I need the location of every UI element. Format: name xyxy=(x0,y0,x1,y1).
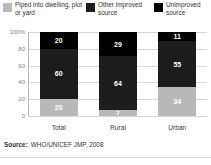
y-tick-label: 0 xyxy=(22,113,25,119)
source-text: WHO/UNICEF JMP, 2008 xyxy=(31,141,104,148)
x-axis-labels: TotalRuralUrban xyxy=(29,124,207,136)
bar-segment: 20 xyxy=(40,99,78,116)
chart-figure: Piped into dwelling, plot or yard Other … xyxy=(0,0,211,165)
bar-rural[interactable]: 29647 xyxy=(99,32,137,116)
bar-segment: 60 xyxy=(40,49,78,99)
y-tick-label: 20 xyxy=(18,96,25,102)
bar-segment: 20 xyxy=(40,32,78,49)
legend-item-unimproved: Unimproved source xyxy=(154,0,209,18)
plot-area: 020406080100% 20602029647115534 xyxy=(0,28,211,124)
legend-swatch-piped xyxy=(3,3,12,12)
y-axis-labels: 020406080100% xyxy=(0,28,28,116)
legend-item-piped: Piped into dwelling, plot or yard xyxy=(3,0,85,18)
y-tick-label: 100% xyxy=(10,29,25,35)
gridline xyxy=(28,116,207,117)
bar-segment: 55 xyxy=(158,41,196,87)
bottom-divider xyxy=(0,157,211,158)
legend-label-other-improved: Other improved source xyxy=(98,0,153,18)
bar-segment: 11 xyxy=(158,32,196,41)
legend-label-unimproved: Unimproved source xyxy=(166,0,209,18)
legend-swatch-unimproved xyxy=(154,3,163,12)
chart-legend: Piped into dwelling, plot or yard Other … xyxy=(0,0,211,27)
source-note: Source:WHO/UNICEF JMP, 2008 xyxy=(4,141,103,148)
y-tick-label: 80 xyxy=(18,46,25,52)
bar-segment: 34 xyxy=(158,87,196,116)
bar-total[interactable]: 206020 xyxy=(40,32,78,116)
x-tick-label: Total xyxy=(40,124,78,131)
legend-swatch-other-improved xyxy=(86,3,95,12)
bar-segment: 29 xyxy=(99,32,137,56)
y-tick-label: 40 xyxy=(18,79,25,85)
bar-group: 20602029647115534 xyxy=(29,32,207,116)
y-tick-label: 60 xyxy=(18,63,25,69)
bar-segment: 64 xyxy=(99,56,137,110)
legend-label-piped: Piped into dwelling, plot or yard xyxy=(15,0,85,18)
x-tick-label: Urban xyxy=(158,124,196,131)
source-prefix: Source: xyxy=(4,141,28,148)
bar-segment: 7 xyxy=(99,110,137,116)
legend-item-other-improved: Other improved source xyxy=(86,0,153,18)
x-tick-label: Rural xyxy=(99,124,137,131)
bar-urban[interactable]: 115534 xyxy=(158,32,196,116)
